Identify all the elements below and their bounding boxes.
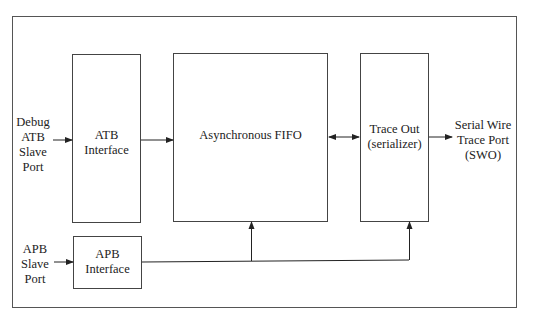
atb-interface-label: ATB Interface	[72, 128, 141, 158]
swo-label: Serial Wire Trace Port (SWO)	[452, 118, 514, 163]
debug-atb-slave-port-label: Debug ATB Slave Port	[12, 115, 54, 175]
apb-interface-label: APB Interface	[73, 247, 142, 277]
trace-out-label: Trace Out (serializer)	[360, 122, 429, 152]
apb-slave-port-label: APB Slave Port	[16, 242, 54, 287]
apb-bus-line	[142, 260, 409, 262]
async-fifo-label: Asynchronous FIFO	[173, 128, 328, 143]
